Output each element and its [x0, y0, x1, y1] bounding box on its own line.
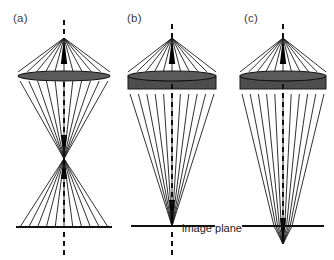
ray-converging: [172, 94, 206, 226]
ray-incident: [283, 38, 300, 72]
ray-incident: [46, 38, 64, 72]
ray-diverging: [46, 157, 64, 227]
focus-caustic-a: [61, 135, 67, 179]
ray-converging: [287, 94, 300, 226]
ray-converging: [288, 94, 307, 226]
ray-diverging: [20, 157, 65, 227]
ray-diverging: [63, 157, 90, 227]
panel-a: [16, 20, 112, 256]
lens-aperture-ellipse: [128, 71, 216, 81]
ray-incident: [64, 38, 101, 72]
panel-label-a: (a): [13, 12, 28, 24]
ray-converging: [65, 81, 99, 157]
lens-aperture-ellipse: [18, 71, 110, 81]
ray-incident: [249, 38, 283, 72]
panel-c: [240, 24, 326, 244]
ray-incident: [137, 38, 172, 72]
ray-converging: [267, 94, 280, 226]
ray-converging: [275, 94, 281, 226]
ray-converging: [242, 94, 274, 226]
ray-diverging: [38, 157, 65, 227]
image-plane-label: image plane: [182, 222, 242, 234]
ray-incident: [172, 38, 190, 72]
ray-bundle-a: [18, 38, 110, 227]
ray-converging: [138, 94, 172, 226]
ray-incident: [266, 38, 283, 72]
ray-incident: [172, 38, 207, 72]
ray-converging: [64, 81, 81, 157]
ray-converging: [285, 94, 291, 226]
ray-diverging: [64, 157, 82, 227]
panel-label-b: (b): [127, 12, 142, 24]
panel-label-c: (c): [244, 12, 258, 24]
ray-converging: [46, 81, 63, 157]
ray-incident: [64, 38, 82, 72]
lens-a: [18, 71, 110, 81]
panels-group: [16, 20, 326, 256]
ray-converging: [290, 94, 316, 226]
ray-converging: [155, 94, 172, 226]
ray-diverging: [63, 157, 108, 227]
ray-incident: [283, 38, 317, 72]
ray-diagram-figure: (a) (b) (c) image plane: [0, 0, 334, 260]
ray-converging: [172, 94, 189, 226]
ray-converging: [258, 94, 277, 226]
ray-converging: [29, 81, 63, 157]
ray-incident: [27, 38, 64, 72]
ray-converging: [250, 94, 276, 226]
ray-converging: [292, 94, 324, 226]
ray-incident: [154, 38, 172, 72]
diagram-canvas: [0, 0, 334, 260]
lens-aperture-ellipse: [240, 71, 326, 81]
